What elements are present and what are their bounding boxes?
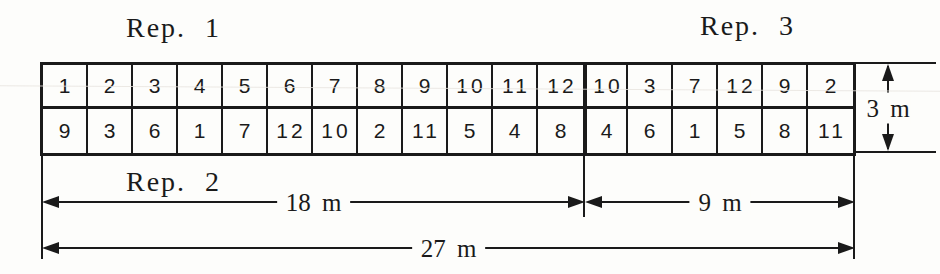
plot-cell: 4 [178, 65, 223, 106]
arrowhead-left-icon [585, 196, 602, 208]
plot-cell: 7 [673, 65, 718, 106]
arrowhead-up-icon [882, 64, 894, 81]
dimension-18m: 18 m [42, 192, 585, 212]
dimension-27m: 27 m [42, 238, 855, 258]
plot-cell: 12 [718, 65, 763, 106]
arrowhead-right-icon [838, 242, 855, 254]
arrowhead-left-icon [42, 242, 59, 254]
plot-cell: 3 [133, 65, 178, 106]
plot-cell: 6 [133, 109, 178, 153]
plot-cell: 9 [763, 65, 808, 106]
plot-cell: 5 [718, 109, 763, 153]
plot-cell: 6 [268, 65, 313, 106]
plot-row-2: 9 3 6 1 7 12 10 2 11 5 4 8 4 6 1 5 8 11 [43, 109, 853, 153]
plot-cell: 8 [358, 65, 403, 106]
arrowhead-left-icon [42, 196, 59, 208]
plot-cell: 7 [313, 65, 358, 106]
dimension-27m-label: 27 m [412, 236, 486, 261]
plot-cell: 10 [313, 109, 358, 153]
plot-cell: 10 [583, 65, 628, 106]
plot-cell: 12 [268, 109, 313, 153]
plot-cell: 4 [493, 109, 538, 153]
plot-cell: 5 [448, 109, 493, 153]
plot-cell: 2 [88, 65, 133, 106]
plot-cell: 7 [223, 109, 268, 153]
dimension-9m-label: 9 m [689, 190, 750, 215]
field-plot-layout-diagram: Rep. 1 Rep. 3 1 2 3 4 5 6 7 8 9 10 11 12… [0, 0, 940, 274]
arrowhead-right-icon [568, 196, 585, 208]
arrowhead-down-icon [882, 134, 894, 151]
rep1-label: Rep. 1 [126, 12, 221, 44]
plot-cell: 11 [493, 65, 538, 106]
plot-cell: 10 [448, 65, 493, 106]
plot-cell: 3 [88, 109, 133, 153]
plot-cell: 1 [43, 65, 88, 106]
plot-cell: 6 [628, 109, 673, 153]
plot-cell: 8 [538, 109, 583, 153]
plot-cell: 1 [178, 109, 223, 153]
plot-cell: 8 [763, 109, 808, 153]
dimension-3m: 3 m [877, 64, 899, 151]
plot-cell: 1 [673, 109, 718, 153]
plot-cell: 2 [358, 109, 403, 153]
dimension-9m: 9 m [585, 192, 855, 212]
arrowhead-right-icon [838, 196, 855, 208]
plot-cell: 4 [583, 109, 628, 153]
rep3-label: Rep. 3 [700, 10, 795, 42]
plot-cell: 3 [628, 65, 673, 106]
dimension-3m-label: 3 m [865, 92, 910, 123]
plot-cell: 9 [403, 65, 448, 106]
plot-cell: 9 [43, 109, 88, 153]
plot-cell: 11 [403, 109, 448, 153]
plot-cell: 11 [808, 109, 853, 153]
plot-cell: 2 [808, 65, 853, 106]
plot-grid: 1 2 3 4 5 6 7 8 9 10 11 12 10 3 7 12 9 2… [40, 62, 856, 156]
extension-line-bottom [855, 151, 936, 153]
dimension-18m-label: 18 m [277, 190, 351, 215]
plot-row-1: 1 2 3 4 5 6 7 8 9 10 11 12 10 3 7 12 9 2 [43, 65, 853, 109]
plot-cell: 5 [223, 65, 268, 106]
plot-cell: 12 [538, 65, 583, 106]
